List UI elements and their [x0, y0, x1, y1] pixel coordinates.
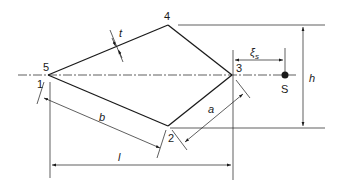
edge-1-2 [48, 75, 168, 126]
label-a: a [208, 103, 214, 115]
profile-outline [48, 25, 232, 126]
node-label-5: 5 [43, 61, 49, 73]
edge-3-2 [168, 75, 232, 126]
node-label-4: 4 [164, 10, 170, 22]
label-b: b [99, 111, 105, 123]
label-t: t [119, 27, 123, 39]
label-l: l [118, 151, 121, 163]
node-label-3: 3 [236, 62, 242, 74]
node-label-1: 1 [37, 78, 43, 90]
edge-5-4 [48, 25, 168, 75]
a-dimension [172, 80, 250, 150]
label-S: S [281, 83, 288, 95]
label-h: h [309, 72, 315, 84]
section-diagram: t h ξs S l b a [0, 0, 340, 190]
edge-4-3 [168, 25, 232, 75]
label-xi-s: ξs [250, 46, 259, 61]
node-label-2: 2 [168, 132, 174, 144]
shear-center-point [282, 72, 289, 79]
